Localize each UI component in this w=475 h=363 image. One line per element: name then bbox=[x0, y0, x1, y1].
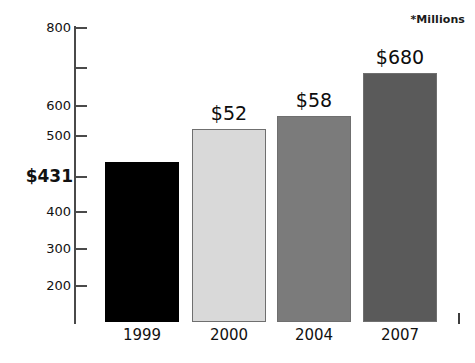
y-axis-tick bbox=[76, 211, 87, 213]
y-axis-tick-label: 800 bbox=[46, 21, 71, 34]
bar-value-label-2000: $52 bbox=[192, 104, 266, 123]
y-axis-line bbox=[74, 26, 76, 324]
y-axis-tick-label: 600 bbox=[46, 99, 71, 112]
millions-annotation: *Millions bbox=[410, 13, 465, 26]
y-axis-tick-label: 200 bbox=[46, 279, 71, 292]
y-axis-tick bbox=[76, 285, 87, 287]
bar-2004 bbox=[277, 116, 351, 322]
y-axis-tick-label: 300 bbox=[46, 242, 71, 255]
y-axis-tick bbox=[76, 176, 87, 178]
bar-2000 bbox=[192, 129, 266, 322]
y-axis-tick-label: $431 bbox=[26, 168, 73, 185]
x-axis-label-1999: 1999 bbox=[105, 328, 179, 343]
y-axis-tick bbox=[76, 248, 87, 250]
y-axis-tick bbox=[76, 67, 87, 69]
x-axis-line bbox=[74, 322, 76, 324]
y-axis-tick bbox=[76, 135, 87, 137]
y-axis-tick bbox=[76, 27, 87, 29]
bar-value-label-2004: $58 bbox=[277, 91, 351, 110]
axis-edge-tick bbox=[458, 313, 460, 324]
y-axis-tick-label: 400 bbox=[46, 205, 71, 218]
x-axis-label-2000: 2000 bbox=[192, 328, 266, 343]
bar-1999 bbox=[105, 162, 179, 322]
y-axis-tick bbox=[76, 105, 87, 107]
y-axis-tick-label: 500 bbox=[46, 129, 71, 142]
bar-chart: *Millions 800600500$431400300200 $52$58$… bbox=[0, 0, 475, 363]
x-axis-label-2007: 2007 bbox=[363, 328, 437, 343]
bar-2007 bbox=[363, 73, 437, 322]
bar-value-label-2007: $680 bbox=[363, 48, 437, 67]
x-axis-label-2004: 2004 bbox=[277, 328, 351, 343]
